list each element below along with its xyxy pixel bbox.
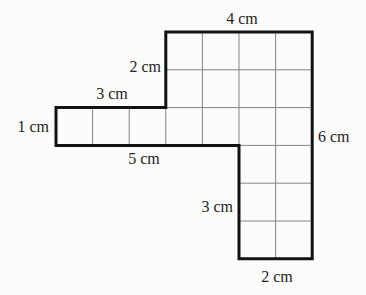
label-top-4cm: 4 cm [226, 11, 258, 27]
label-arm-bottom-5cm: 5 cm [128, 151, 160, 167]
label-upper-left-2cm: 2 cm [129, 59, 161, 75]
label-lower-left-3cm: 3 cm [201, 199, 233, 215]
polygon-figure [0, 0, 366, 295]
geometry-figure-canvas: 4 cm 2 cm 3 cm 1 cm 5 cm 6 cm 3 cm 2 cm [0, 0, 366, 295]
label-arm-top-3cm: 3 cm [96, 86, 128, 102]
label-arm-left-1cm: 1 cm [17, 119, 49, 135]
label-bottom-2cm: 2 cm [261, 269, 293, 285]
label-right-6cm: 6 cm [318, 129, 350, 145]
